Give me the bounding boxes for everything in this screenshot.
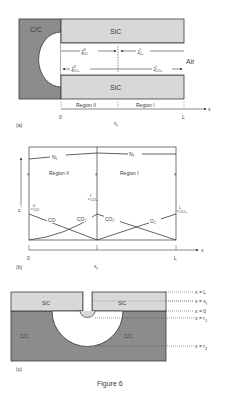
- cc-left-label: C/C: [20, 333, 29, 339]
- sic-bottom-label: SiC: [110, 84, 121, 91]
- axis-L-b: L: [174, 255, 177, 261]
- air-label: Air: [186, 58, 195, 65]
- crack-slot: [83, 292, 92, 311]
- sic-top-block: [61, 19, 184, 43]
- marker-x-xf: x = xf: [195, 298, 208, 306]
- c-co-0-label: c0CO: [31, 203, 39, 212]
- figure-caption: Figure 6: [97, 380, 123, 388]
- region-I-label-b: Region I: [120, 170, 139, 176]
- marker-x-r2: x = r2: [195, 343, 208, 351]
- cc-right-label: C/C: [124, 333, 133, 339]
- axis-xf: xf: [114, 120, 119, 128]
- axis-x-label: x: [208, 106, 211, 112]
- axis-break-mid: §: [95, 172, 97, 177]
- panel-a-label: (a): [16, 122, 22, 128]
- axis-break-left: §: [27, 172, 29, 177]
- panel-a: C/C SiC SiC Air JIICO JIO₂ JIICO₂ JICO₂ …: [16, 19, 211, 128]
- cc-label: C/C: [30, 26, 42, 33]
- panel-c-label: (c): [16, 366, 22, 372]
- axis-L: L: [182, 114, 185, 120]
- marker-x-L: x = L: [195, 289, 206, 295]
- axis-xf-b: xf: [94, 263, 99, 271]
- chart-frame: [29, 147, 176, 240]
- y-axis-label: c*: [18, 205, 23, 213]
- co2-curve-II-label: CO₂: [77, 216, 87, 222]
- region-II-label-b: Region II: [49, 170, 69, 176]
- co2-curve-I-label: CO₂: [105, 216, 115, 222]
- region-I-label: Region I: [136, 102, 155, 108]
- sic-right-block: [92, 292, 166, 311]
- sic-bottom-block: [61, 75, 184, 99]
- c-co2-L-label: cLCO₂: [177, 205, 187, 214]
- co-curve-label: CO: [48, 217, 56, 223]
- panel-b: c* N₂ N₂ § § § Region II Region I CO CO₂…: [16, 147, 204, 271]
- axis-x-label-b: x: [201, 247, 204, 253]
- marker-x-r1: x = r1: [195, 315, 208, 323]
- c-co2-f-label: cfCO₂: [88, 193, 98, 202]
- n2-label-right: N₂: [129, 151, 135, 157]
- figure-canvas: C/C SiC SiC Air JIICO JIO₂ JIICO₂ JICO₂ …: [0, 0, 227, 400]
- panel-c: SiC SiC C/C C/C x = L x = xf x = 0 x = r…: [11, 289, 208, 372]
- o2-curve-label: O₂: [150, 218, 156, 224]
- axis-origin-b: 0: [27, 255, 30, 261]
- axis-origin: 0: [59, 114, 62, 120]
- n2-label-left: N₂: [52, 154, 58, 160]
- region-II-label: Region II: [76, 102, 96, 108]
- axis-break-right: §: [174, 172, 176, 177]
- sic-top-label: SiC: [110, 28, 121, 35]
- panel-b-label: (b): [16, 264, 22, 270]
- marker-x-0: x = 0: [195, 308, 206, 314]
- sic-left-label: SiC: [42, 300, 50, 306]
